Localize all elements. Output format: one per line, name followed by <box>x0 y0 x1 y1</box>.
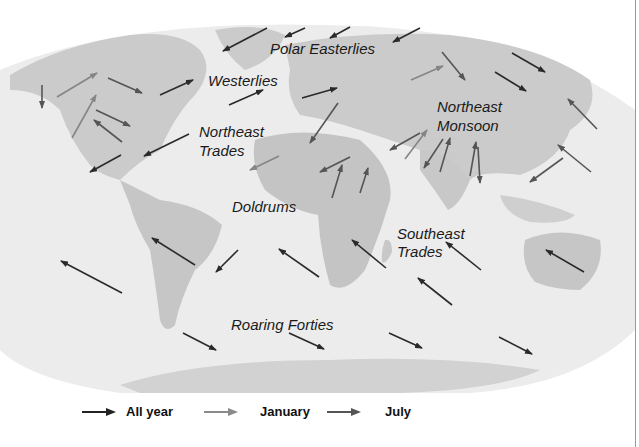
arrow-right-icon <box>204 408 238 416</box>
label-polar-easterlies: Polar Easterlies <box>270 40 375 57</box>
arrow-right-icon <box>327 408 361 416</box>
map-figure: Polar Easterlies Westerlies Northeast Tr… <box>0 0 639 447</box>
legend: All year January July <box>0 404 639 428</box>
arrow-right-icon <box>82 408 116 416</box>
label-roaring-forties: Roaring Forties <box>231 316 334 333</box>
legend-label: All year <box>126 404 173 419</box>
legend-item-july: July <box>327 404 411 419</box>
right-border <box>635 0 636 447</box>
legend-label: July <box>385 404 411 419</box>
legend-label: January <box>260 404 310 419</box>
legend-item-all-year: All year <box>82 404 173 419</box>
label-southeast-trades-1: Southeast <box>397 225 465 242</box>
label-southeast-trades-2: Trades <box>397 243 443 260</box>
label-northeast-monsoon-2: Monsoon <box>437 117 499 134</box>
label-northeast-trades-1: Northeast <box>199 123 264 140</box>
world-map <box>0 0 639 400</box>
label-doldrums: Doldrums <box>232 198 296 215</box>
label-westerlies: Westerlies <box>208 72 278 89</box>
label-northeast-trades-2: Trades <box>199 142 245 159</box>
label-northeast-monsoon-1: Northeast <box>437 98 502 115</box>
legend-item-january: January <box>204 404 310 419</box>
